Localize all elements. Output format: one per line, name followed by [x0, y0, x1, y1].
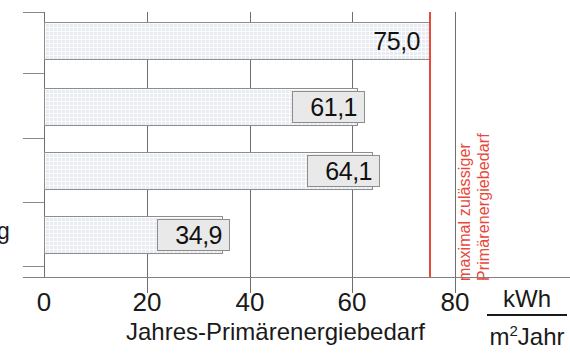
bar-value-4: 34,9 [157, 219, 230, 251]
x-tick-label-0: 0 [24, 287, 64, 318]
unit-numerator: kWh [487, 285, 567, 313]
reference-line-label-line1: maximal zulässiger [455, 143, 474, 281]
clipped-category-label: g [0, 218, 10, 245]
unit-denominator-base: m [489, 323, 509, 350]
x-tick-label-40: 40 [230, 287, 270, 318]
reference-line [429, 12, 431, 278]
reference-line-label-line2: Primärenergiebedarf [474, 133, 493, 281]
bar-value-1: 75,0 [355, 25, 427, 57]
x-tick-label-60: 60 [332, 287, 372, 318]
bar-value-2: 61,1 [292, 91, 365, 123]
x-tick-label-20: 20 [127, 287, 167, 318]
bar-chart: g 75,0 61,1 64,1 34,9 maximal zulässiger… [0, 0, 570, 353]
unit-fraction: kWh m2Jahr [487, 285, 567, 351]
unit-denominator-rest: Jahr [518, 323, 565, 350]
x-axis-title: Jahres-Primärenergiebedarf [126, 318, 425, 346]
bar-value-3: 64,1 [307, 155, 380, 187]
unit-denominator-exponent: 2 [509, 322, 517, 339]
x-axis-line [23, 277, 570, 278]
y-axis-tick [23, 138, 44, 139]
y-axis-tick [23, 73, 44, 74]
unit-fraction-rule [487, 314, 567, 316]
y-axis-tick [23, 202, 44, 203]
unit-denominator: m2Jahr [487, 317, 567, 351]
x-tick-label-80: 80 [435, 287, 475, 318]
y-axis-tick [23, 266, 44, 267]
y-axis-tick [23, 12, 44, 13]
